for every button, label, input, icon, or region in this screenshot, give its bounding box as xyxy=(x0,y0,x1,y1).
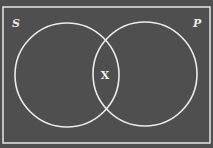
intersection-x-mark: X xyxy=(101,69,110,82)
set-p-label: P xyxy=(192,17,202,30)
venn-diagram: S P X xyxy=(0,0,213,148)
set-s-label: S xyxy=(12,17,20,30)
venn-svg: S P X xyxy=(0,0,213,148)
